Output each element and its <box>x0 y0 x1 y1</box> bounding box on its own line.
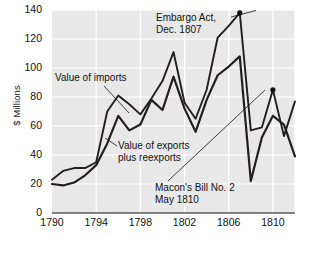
annotation-macons-bill: Macon's Bill No. 2 May 1810 <box>155 182 235 205</box>
annotation-value-of-exports: Value of exports plus reexports <box>118 140 190 163</box>
x-tick-1790: 1790 <box>27 216 77 228</box>
annotation-value-of-exports-line2: plus reexports <box>118 152 190 164</box>
y-tick-120: 120 <box>8 32 42 44</box>
y-axis-label: $ Millions <box>11 66 22 146</box>
annotation-embargo-act: Embargo Act, Dec. 1807 <box>156 12 216 35</box>
chart-figure: $ Millions 020406080100120140 1790179417… <box>0 0 312 253</box>
annotation-macons-bill-line1: Macon's Bill No. 2 <box>155 182 235 193</box>
marker-embargo-act <box>237 10 242 15</box>
annotation-value-of-imports-line1: Value of imports <box>55 72 127 83</box>
annotation-embargo-act-line1: Embargo Act, <box>156 12 216 23</box>
annotation-embargo-act-line2: Dec. 1807 <box>156 24 216 36</box>
y-tick-40: 40 <box>8 148 42 160</box>
x-tick-1806: 1806 <box>204 216 254 228</box>
annotation-value-of-exports-line1: Value of exports <box>118 140 190 151</box>
x-tick-1798: 1798 <box>115 216 165 228</box>
annotation-macons-bill-line2: May 1810 <box>155 194 235 206</box>
annotation-value-of-imports: Value of imports <box>55 72 127 84</box>
x-tick-1802: 1802 <box>160 216 210 228</box>
y-tick-140: 140 <box>8 3 42 15</box>
x-tick-1810: 1810 <box>248 216 298 228</box>
y-tick-100: 100 <box>8 61 42 73</box>
y-tick-80: 80 <box>8 90 42 102</box>
marker-macons-bill-no-2 <box>270 87 275 92</box>
y-tick-20: 20 <box>8 177 42 189</box>
x-tick-1794: 1794 <box>71 216 121 228</box>
y-tick-60: 60 <box>8 119 42 131</box>
